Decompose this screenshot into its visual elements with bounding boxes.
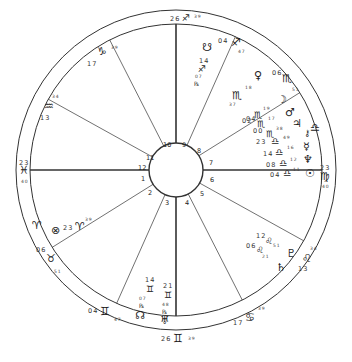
jupiter-minutes: 38 xyxy=(276,127,284,132)
part-of-fortune-glyph: ⊗ xyxy=(51,225,60,236)
cusp-6-degree: 13 xyxy=(298,266,308,273)
mc-minutes: 39 xyxy=(194,15,202,20)
cusp-8-sign-glyph: ♏ xyxy=(282,73,292,84)
ic-minutes: 39 xyxy=(188,337,196,342)
neptune-degree: 08 xyxy=(266,162,276,169)
venus-sign-glyph: ♏ xyxy=(232,90,242,101)
cusp-8-degree: 06 xyxy=(272,70,282,77)
cusp-line-5 xyxy=(188,194,242,300)
house-number-3: 3 xyxy=(165,200,169,207)
intercepted-libra-glyph: ♎ xyxy=(310,122,320,133)
saturn-degree: 06 xyxy=(246,243,256,250)
mc-sign-glyph: ♐ xyxy=(182,14,190,23)
north-node-glyph: ☊ xyxy=(135,310,145,321)
south-node-minutes: 07 xyxy=(195,75,203,80)
cusp-3-minutes: 47 xyxy=(114,318,122,323)
uranus-sign-glyph: ♊ xyxy=(164,291,172,300)
uranus-degree: 21 xyxy=(163,283,173,290)
asc-minutes: 40 xyxy=(21,180,29,185)
cusp-line-6 xyxy=(200,183,304,241)
south-node-retrograde: ℞ xyxy=(194,81,199,87)
house-number-2: 2 xyxy=(148,190,152,197)
north-node-degree: 14 xyxy=(145,277,155,284)
cusp-9-degree: 04 xyxy=(218,38,228,45)
moon-minutes: 19 xyxy=(263,107,271,112)
house-number-4: 4 xyxy=(185,200,189,207)
house-number-10: 10 xyxy=(163,142,171,149)
house-number-6: 6 xyxy=(210,177,214,184)
part-of-fortune-minutes: 39 xyxy=(85,218,93,223)
pluto-sign-glyph: ♌ xyxy=(265,237,273,246)
saturn-minutes: 21 xyxy=(262,255,270,260)
mercury-degree: 14 xyxy=(263,151,273,158)
cusp-12-minutes: 34 xyxy=(52,95,60,100)
mars-degree: 02 xyxy=(242,118,252,125)
venus-glyph: ♀ xyxy=(254,70,262,81)
mercury-sign-glyph: ♎ xyxy=(275,148,283,157)
cusp-9-minutes: 47 xyxy=(238,50,246,55)
venus-minutes: 37 xyxy=(229,103,237,108)
cusp-5-minutes: 39 xyxy=(258,307,266,312)
house-number-11: 11 xyxy=(146,155,154,162)
cusp-11-sign-glyph: ♑ xyxy=(97,46,107,57)
cusp-9-sign-glyph: ♐ xyxy=(231,37,241,48)
cusp-11-minutes: 39 xyxy=(111,46,119,51)
cusp-5-degree: 17 xyxy=(233,320,243,327)
moon-glyph: ☽ xyxy=(277,94,287,105)
intercepted-aries-glyph: ♈ xyxy=(32,220,42,231)
south-node-glyph: ☋ xyxy=(202,42,212,53)
mercury-glyph: ☿ xyxy=(303,141,310,152)
chiron-degree: 23 xyxy=(256,139,266,146)
cusp-2-minutes: 51 xyxy=(54,270,62,275)
cusp-12-sign-glyph: ♒ xyxy=(44,101,54,112)
ic-degree: 26 xyxy=(161,336,171,343)
cusp-line-11 xyxy=(110,40,164,146)
cusp-6-minutes: 34 xyxy=(310,247,318,252)
venus-degree: 18 xyxy=(245,86,253,91)
house-number-5: 5 xyxy=(200,191,204,198)
chiron-glyph: ⚷ xyxy=(304,129,311,138)
house-number-8: 8 xyxy=(197,148,201,155)
sun-glyph: ☉ xyxy=(305,168,315,179)
house-number-9: 9 xyxy=(182,142,186,149)
mc-degree: 26 xyxy=(170,16,180,23)
cusp-12-degree: 13 xyxy=(40,115,50,122)
cusp-5-sign-glyph: ♋ xyxy=(245,312,255,323)
saturn-glyph: ♄ xyxy=(276,262,286,273)
part-of-fortune-sign-glyph: ♈ xyxy=(75,221,85,232)
chart-wheel xyxy=(0,0,352,362)
uranus-minutes: 48 xyxy=(162,303,170,308)
house-number-12: 12 xyxy=(138,165,146,172)
cusp-3-degree: 04 xyxy=(88,308,98,315)
jupiter-glyph: ♃ xyxy=(292,118,302,129)
uranus-glyph: ♅ xyxy=(160,315,170,326)
north-node-minutes: 07 xyxy=(139,297,147,302)
house-number-7: 7 xyxy=(209,160,213,167)
mercury-minutes: 16 xyxy=(287,146,295,151)
south-node-sign-glyph: ♐ xyxy=(198,65,206,74)
house-number-1: 1 xyxy=(141,176,145,183)
cusp-6-sign-glyph: ♌ xyxy=(302,253,312,264)
chiron-minutes: 49 xyxy=(283,136,291,141)
dsc-minutes: 40 xyxy=(322,185,330,190)
cusp-11-degree: 17 xyxy=(87,61,97,68)
chiron-sign-glyph: ♎ xyxy=(271,137,279,146)
cusp-8-minutes: 51 xyxy=(292,88,300,93)
neptune-minutes: 12 xyxy=(290,158,298,163)
cusp-3-sign-glyph: ♊ xyxy=(100,306,110,317)
sun-degree: 04 xyxy=(270,172,280,179)
pluto-glyph: ♇ xyxy=(286,248,296,259)
ic-sign-glyph: ♊ xyxy=(173,333,183,344)
cusp-2-sign-glyph: ♉ xyxy=(46,253,56,264)
neptune-glyph: ♆ xyxy=(303,154,313,165)
asc-sign-glyph: ♓ xyxy=(19,165,29,176)
sun-sign-glyph: ♎ xyxy=(283,169,291,178)
center-circle xyxy=(149,143,203,197)
part-of-fortune-degree: 23 xyxy=(63,225,73,232)
cusp-line-2 xyxy=(52,184,153,247)
pluto-minutes: 51 xyxy=(273,244,281,249)
cusp-line-12 xyxy=(48,99,152,157)
cusp-2-degree: 06 xyxy=(36,247,46,254)
north-node-sign-glyph: ♊ xyxy=(146,285,154,294)
cusp-line-3 xyxy=(117,195,165,304)
